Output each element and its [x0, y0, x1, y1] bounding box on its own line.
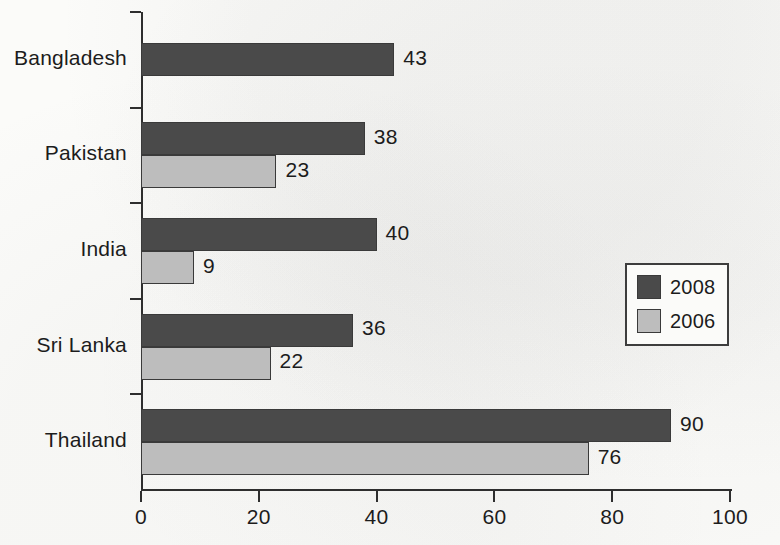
bar-pakistan-2008 — [141, 122, 365, 155]
legend-entry-2008: 2008 — [637, 275, 715, 299]
legend-swatch-2008 — [637, 275, 661, 299]
x-axis-tick — [258, 491, 260, 502]
y-axis-tick — [130, 107, 141, 109]
y-axis-tick — [130, 11, 141, 13]
bar-pakistan-2006 — [141, 155, 276, 188]
y-axis-category-label: Thailand — [45, 428, 127, 452]
bar-value-label: 36 — [362, 316, 386, 340]
y-axis-tick — [130, 202, 141, 204]
y-axis-category-label: Bangladesh — [14, 46, 127, 70]
x-axis-tick-label: 80 — [600, 505, 624, 529]
bar-value-label: 22 — [280, 349, 304, 373]
x-axis-tick — [493, 491, 495, 502]
y-axis-category-label: Sri Lanka — [36, 333, 127, 357]
x-axis-tick-label: 20 — [247, 505, 271, 529]
x-axis-tick-label: 40 — [365, 505, 389, 529]
x-axis-tick — [611, 491, 613, 502]
bar-value-label: 43 — [403, 46, 427, 70]
legend-entry-2006: 2006 — [637, 309, 715, 333]
bar-india-2008 — [141, 218, 377, 251]
bar-value-label: 90 — [680, 412, 704, 436]
bar-chart: 020406080100 BangladeshPakistanIndiaSri … — [0, 0, 780, 545]
x-axis-tick-label: 0 — [135, 505, 147, 529]
bar-sri-lanka-2008 — [141, 314, 353, 347]
bar-thailand-2008 — [141, 409, 671, 442]
bar-value-label: 23 — [285, 158, 309, 182]
bar-value-label: 40 — [386, 221, 410, 245]
bar-thailand-2006 — [141, 442, 589, 475]
x-axis-tick-label: 60 — [482, 505, 506, 529]
y-axis-category-label: Pakistan — [45, 141, 127, 165]
x-axis-tick-label: 100 — [712, 505, 748, 529]
x-axis-tick — [729, 491, 731, 502]
x-axis-tick — [376, 491, 378, 502]
bar-value-label: 76 — [598, 445, 622, 469]
y-axis-category-label: India — [80, 237, 127, 261]
bar-bangladesh-2008 — [141, 43, 394, 76]
chart-legend: 2008 2006 — [625, 263, 729, 346]
bar-value-label: 9 — [203, 254, 215, 278]
bar-sri-lanka-2006 — [141, 347, 271, 380]
bar-india-2006 — [141, 251, 194, 284]
y-axis-tick — [130, 393, 141, 395]
x-axis-tick — [140, 491, 142, 502]
legend-label-2006: 2006 — [670, 310, 715, 333]
legend-swatch-2006 — [637, 309, 661, 333]
bar-value-label: 38 — [374, 125, 398, 149]
legend-label-2008: 2008 — [670, 276, 715, 299]
y-axis-tick — [130, 298, 141, 300]
